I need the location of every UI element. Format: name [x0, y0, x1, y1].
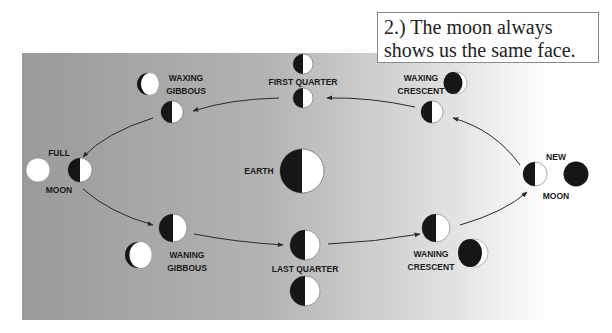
- last-quarter-view-icon: [290, 276, 320, 306]
- full-moon-view-icon: [26, 158, 50, 182]
- new-moon-label-2: MOON: [543, 191, 569, 201]
- full-moon-label-2: MOON: [46, 185, 72, 195]
- waxing-gibbous-orbit-moon-icon: [161, 101, 183, 123]
- full-moon-orbit-moon-icon: [68, 158, 92, 182]
- last-quarter-orbit-moon-icon: [290, 230, 320, 260]
- waxing-crescent-view-icon: [444, 72, 468, 94]
- waxing-crescent-label-1: WAXING: [404, 73, 439, 83]
- first-quarter-label: FIRST QUARTER: [269, 77, 338, 87]
- first-quarter-orbit-moon-icon: [293, 88, 313, 108]
- waxing-crescent-label-2: CRESCENT: [398, 86, 446, 96]
- waning-gibbous-orbit-moon-icon: [159, 214, 187, 242]
- new-moon-view-icon: [564, 162, 589, 187]
- waxing-crescent-orbit-moon-icon: [421, 101, 443, 123]
- earth-label: EARTH: [244, 166, 273, 176]
- waning-crescent-label-1: WANING: [414, 249, 449, 259]
- waxing-gibbous-label-2: GIBBOUS: [166, 86, 206, 96]
- caption-line-2: shows us the same face.: [384, 39, 598, 62]
- earth-icon: [280, 149, 324, 193]
- waning-gibbous-label-2: GIBBOUS: [167, 263, 207, 273]
- waning-crescent-orbit-moon-icon: [422, 214, 450, 242]
- first-quarter-view-icon: [293, 54, 313, 74]
- waning-gibbous-view-icon: [125, 242, 152, 268]
- caption-line-1: 2.) The moon always: [384, 16, 598, 39]
- waning-gibbous-label-1: WANING: [170, 250, 205, 260]
- caption-box: 2.) The moon always shows us the same fa…: [377, 12, 599, 63]
- waning-crescent-label-2: CRESCENT: [408, 262, 456, 272]
- new-moon-orbit-moon-icon: [523, 162, 547, 186]
- new-moon-label-1: NEW: [546, 152, 567, 162]
- waning-crescent-view-icon: [458, 239, 488, 267]
- moon-phases-diagram: EARTH: [0, 0, 612, 333]
- waxing-gibbous-view-icon: [137, 73, 159, 95]
- full-moon-label-1: FULL: [48, 148, 70, 158]
- last-quarter-label: LAST QUARTER: [272, 264, 339, 274]
- waxing-gibbous-label-1: WAXING: [169, 73, 204, 83]
